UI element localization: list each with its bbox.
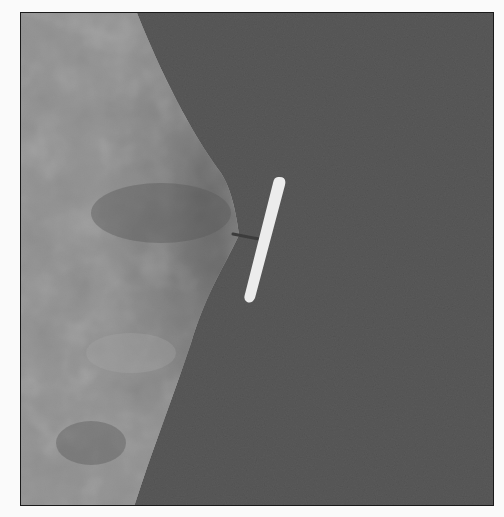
photo <box>21 13 494 506</box>
photo-frame <box>20 12 494 506</box>
